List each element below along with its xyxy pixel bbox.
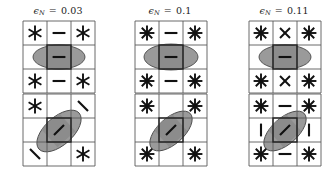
panel-title-col0: ϵN = 0.03 — [10, 2, 106, 20]
grid-wrap — [134, 20, 206, 92]
glyph-grid — [134, 93, 208, 167]
equals-sign: = — [48, 5, 58, 16]
panel-r0-c1: ϵN = 0.1 — [122, 2, 218, 92]
figure-glyph-grid-array: ϵN = 0.03ϵN = 0.1ϵN = 0.11 — [0, 0, 334, 182]
glyph-grid — [248, 20, 322, 94]
glyph-grid — [248, 93, 322, 167]
grid-wrap — [134, 93, 206, 165]
panel-title-col1: ϵN = 0.1 — [122, 2, 218, 20]
epsilon-subscript: N — [265, 9, 271, 17]
noise-value: 0.11 — [287, 5, 309, 16]
grid-wrap — [22, 20, 94, 92]
panel-r0-c2: ϵN = 0.11 — [236, 2, 332, 92]
panel-r1-c0 — [10, 93, 106, 165]
panel-r1-c2 — [236, 93, 332, 165]
grid-wrap — [248, 20, 320, 92]
equals-sign: = — [163, 5, 173, 16]
panel-r0-c0: ϵN = 0.03 — [10, 2, 106, 92]
equals-sign: = — [274, 5, 284, 16]
glyph-grid — [22, 20, 96, 94]
epsilon-subscript: N — [39, 9, 45, 17]
glyph-grid — [22, 93, 96, 167]
grid-wrap — [22, 93, 94, 165]
noise-value: 0.1 — [176, 5, 191, 16]
grid-wrap — [248, 93, 320, 165]
panel-title-col2: ϵN = 0.11 — [236, 2, 332, 20]
noise-value: 0.03 — [61, 5, 83, 16]
glyph-grid — [134, 20, 208, 94]
epsilon-subscript: N — [154, 9, 160, 17]
panel-r1-c1 — [122, 93, 218, 165]
